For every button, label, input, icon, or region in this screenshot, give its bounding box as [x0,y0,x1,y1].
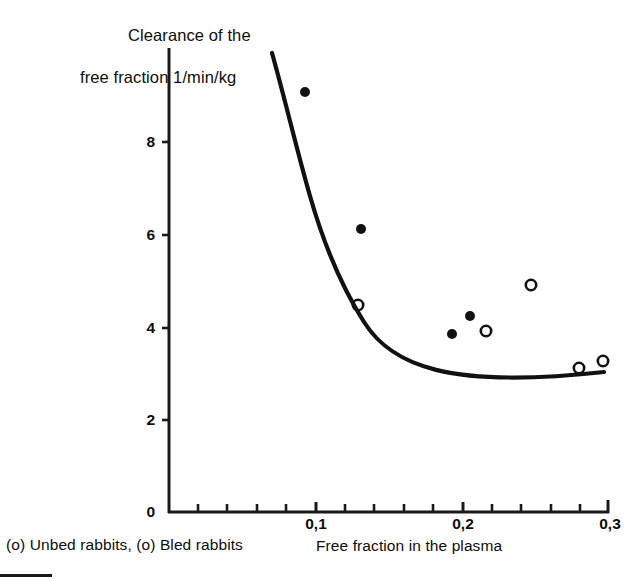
page-rule-artifact [0,574,52,577]
data-point-filled [356,224,366,234]
data-point-open [574,363,584,373]
series-bled-rabbits-points [353,280,608,373]
y-axis-title-line2: free fraction 1/min/kg [80,67,358,88]
y-axis-title: Clearance of the free fraction 1/min/kg [128,4,358,109]
x-axis-title: Free fraction in the plasma [316,537,502,555]
y-tick-label-8: 8 [133,133,155,151]
scatter-plot-figure: Clearance of the free fraction 1/min/kg [0,0,632,581]
x-tick-label-0-2: 0,2 [443,515,483,533]
data-point-open [598,356,608,366]
x-tick-label-0-3: 0,3 [590,515,630,533]
data-point-open [526,280,536,290]
y-tick-label-4: 4 [133,319,155,337]
y-tick-label-6: 6 [133,226,155,244]
data-point-filled [447,329,457,339]
y-tick-label-2: 2 [133,411,155,429]
legend-caption: (o) Unbed rabbits, (o) Bled rabbits [6,536,243,554]
x-tick-label-0-1: 0,1 [296,515,336,533]
data-point-filled [465,311,475,321]
y-axis-title-line1: Clearance of the [128,26,251,44]
data-point-open [481,326,491,336]
y-tick-label-0: 0 [133,503,155,521]
series-unbed-rabbits-points [300,87,475,339]
